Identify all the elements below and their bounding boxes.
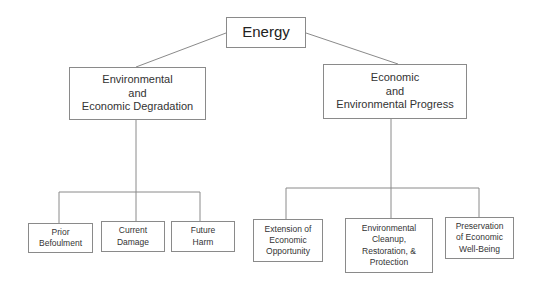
node-current-damage: Current Damage: [101, 221, 165, 252]
node-future-harm: Future Harm: [171, 221, 235, 252]
node-energy: Energy: [226, 17, 306, 48]
connector-root-right: [306, 33, 398, 64]
node-environmental-cleanup: Environmental Cleanup, Restoration, & Pr…: [345, 218, 433, 273]
node-extension-economic-opportunity: Extension of Economic Opportunity: [253, 219, 323, 262]
connector-root-left: [136, 33, 226, 67]
node-economic-environmental-progress: Economic and Environmental Progress: [323, 64, 467, 119]
node-preservation-economic-wellbeing: Preservation of Economic Well-Being: [445, 217, 514, 259]
node-environmental-economic-degradation: Environmental and Economic Degradation: [69, 67, 206, 120]
node-prior-befoulment: Prior Befoulment: [28, 223, 93, 253]
